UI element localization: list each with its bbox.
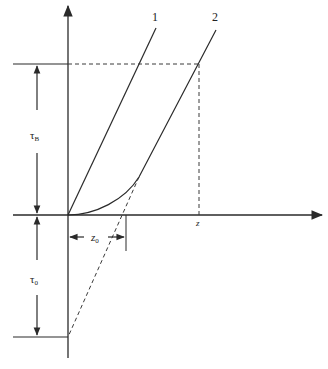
tau-b-subscript: B	[34, 135, 39, 143]
tau-b-label: τB	[30, 129, 39, 143]
tau-0-subscript: 0	[34, 279, 38, 287]
curve-2-label: 2	[212, 10, 218, 24]
curve-1	[68, 28, 156, 215]
curve-2-extrapolation	[68, 177, 139, 337]
rheology-diagram: 1 2 τB τ0 z0 z	[0, 0, 328, 369]
z-axis-label: z	[195, 218, 200, 228]
curve-1-label: 1	[152, 10, 158, 24]
z0-label: z0	[90, 231, 99, 245]
z0-subscript: 0	[95, 237, 99, 245]
tau-0-label: τ0	[30, 273, 38, 287]
